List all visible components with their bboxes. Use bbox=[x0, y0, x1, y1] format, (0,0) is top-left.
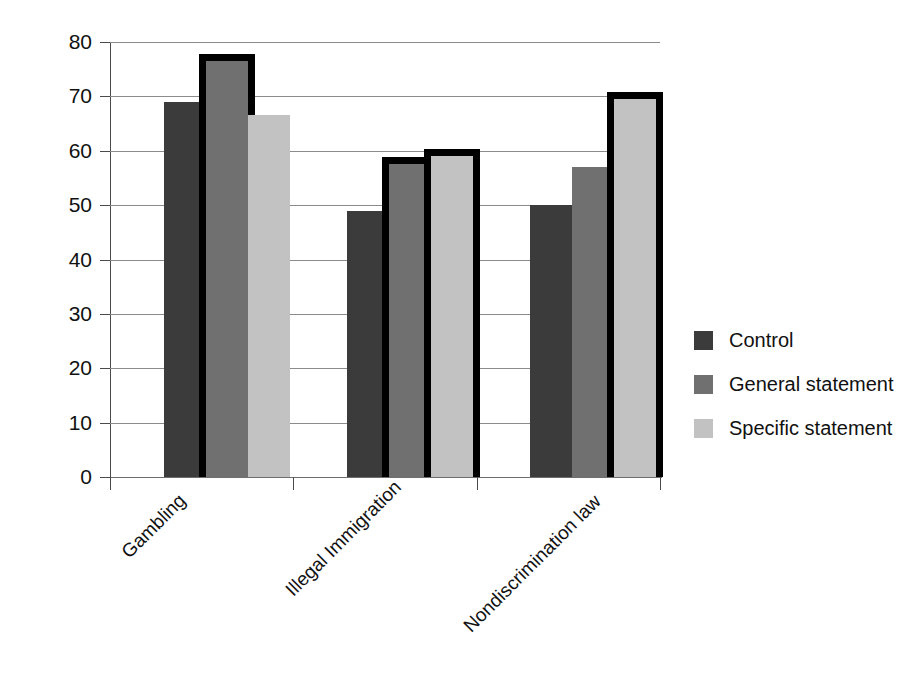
y-axis-tick-label: 30 bbox=[48, 303, 92, 324]
legend-item: Control bbox=[694, 318, 894, 362]
x-axis-category-label: Nondiscrimination law bbox=[460, 491, 604, 635]
bar bbox=[424, 149, 480, 477]
x-axis-baseline bbox=[110, 477, 662, 478]
x-axis-tick bbox=[293, 477, 294, 490]
x-axis-tick bbox=[477, 477, 478, 490]
y-axis-tick-label: 10 bbox=[48, 412, 92, 433]
legend-label: Control bbox=[729, 329, 793, 352]
x-axis-category-label: Illegal Immigration bbox=[282, 477, 404, 599]
bar-chart: Support for LDS Church position 80706050… bbox=[0, 0, 919, 684]
x-axis-tick bbox=[660, 477, 661, 490]
y-axis-tick-label: 50 bbox=[48, 194, 92, 215]
legend: ControlGeneral statementSpecific stateme… bbox=[694, 318, 894, 450]
y-axis-tick-label: 20 bbox=[48, 357, 92, 378]
legend-item: General statement bbox=[694, 362, 894, 406]
legend-swatch bbox=[694, 375, 713, 394]
bar bbox=[199, 54, 255, 477]
y-axis-tick-label: 60 bbox=[48, 140, 92, 161]
gridline bbox=[110, 42, 660, 43]
legend-label: Specific statement bbox=[729, 417, 892, 440]
legend-swatch bbox=[694, 419, 713, 438]
y-axis-tick-label: 40 bbox=[48, 249, 92, 270]
legend-item: Specific statement bbox=[694, 406, 894, 450]
y-axis-tick-label: 70 bbox=[48, 85, 92, 106]
bar bbox=[607, 92, 663, 477]
x-axis-category-label: Gambling bbox=[118, 490, 189, 561]
bar bbox=[248, 115, 290, 477]
x-axis-tick bbox=[110, 477, 111, 490]
legend-label: General statement bbox=[729, 373, 894, 396]
legend-swatch bbox=[694, 331, 713, 350]
y-axis-tick-label: 80 bbox=[48, 31, 92, 52]
gridline bbox=[110, 96, 660, 97]
bar bbox=[530, 205, 572, 477]
y-axis-tick-label: 0 bbox=[48, 466, 92, 487]
plot-area bbox=[110, 42, 660, 477]
